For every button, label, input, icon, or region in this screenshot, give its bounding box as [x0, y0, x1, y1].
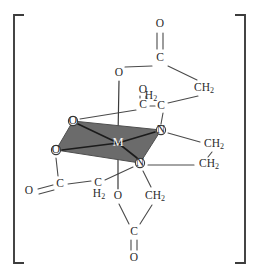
atom-label-o-upper-left: O: [69, 114, 77, 126]
bond-cleft-oleftdouble-a: [38, 185, 53, 189]
atom-label-o-left-double: O: [25, 184, 33, 196]
atom-label-h2-lower-methylene: H2: [93, 187, 105, 201]
atom-label-ch2-top-right: CH2: [194, 81, 214, 95]
bond-cupper-oupperleft: [80, 110, 136, 119]
bond-ctop-oaxialtop: [125, 66, 152, 67]
atom-label-o-bottom-double: O: [130, 251, 138, 263]
coordination-plane: [56, 121, 161, 163]
bond-cbottom-oaxialbottom: [119, 204, 129, 224]
bond-ch2topright-cmethyleneupper: [168, 96, 198, 103]
atom-label-ch2-right-lower: CH2: [199, 157, 219, 171]
atom-label-n-right: N: [157, 123, 166, 135]
atom-label-o-axial-bottom: O: [114, 189, 122, 201]
atom-label-ch2-bottom: CH2: [145, 189, 165, 203]
atom-label-o-top-double: O: [156, 17, 164, 29]
left-bracket: [14, 15, 24, 263]
atom-label-metal: M: [112, 135, 123, 149]
atom-label-o-left: O: [52, 143, 60, 155]
atom-label-c-bottom-carboxyl: C: [130, 225, 138, 237]
bond-cleft-oleft: [56, 158, 58, 176]
atom-label-ch2-right-upper: CH2: [204, 137, 224, 151]
atom-label-c-left-carboxyl: C: [56, 177, 64, 189]
bond-ch2bottom-nlower: [143, 171, 151, 187]
bond-cbottom-ch2bottom: [140, 205, 152, 224]
atom-label-c-methylene-upper: C: [157, 99, 165, 111]
bond-cleft-oleftdouble-b: [39, 190, 54, 194]
atom-label-c-top-carboxyl: C: [156, 51, 164, 63]
bond-cleft-cmethylenelower: [68, 181, 91, 184]
bond-nright-ch2rightupper: [168, 133, 200, 142]
bond-cmethylenelower-nlower: [105, 167, 133, 180]
bond-ctop-ch2topright: [168, 66, 197, 80]
chemical-structure-figure: M O O N N O O C C C C C C O O O O H2 H: [0, 0, 261, 278]
atom-label-n-lower: N: [136, 156, 145, 168]
right-bracket: [235, 15, 245, 263]
atom-label-o-axial-top: O: [115, 66, 123, 78]
structure-svg: M O O N N O O C C C C C C O O O O H2 H: [0, 0, 261, 278]
